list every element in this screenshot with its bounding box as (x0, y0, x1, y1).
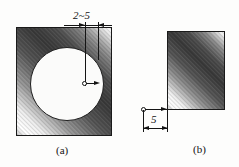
arrowhead-b-left-icon (143, 126, 149, 130)
arrowhead-a-left-icon (79, 23, 85, 27)
extension-line-a-left (85, 22, 86, 86)
subfigure-caption-b: (b) (193, 143, 206, 155)
extension-line-a-right (98, 22, 99, 60)
diagonal-gradient-texture-b (167, 31, 225, 110)
subfigure-caption-a: (a) (56, 144, 68, 156)
arrowhead-a-leader-icon (94, 81, 100, 85)
circular-hole-a (30, 47, 104, 121)
dimension-label-b: 5 (151, 113, 157, 125)
dimension-line-a (64, 25, 112, 26)
textured-square-b (167, 31, 225, 110)
dimension-label-a: 2~5 (73, 9, 90, 21)
figure-panel: 2~5 (a) 5 (b) (0, 0, 239, 167)
arrowhead-a-right-icon (98, 23, 104, 27)
arrowhead-b-right-icon (162, 126, 168, 130)
